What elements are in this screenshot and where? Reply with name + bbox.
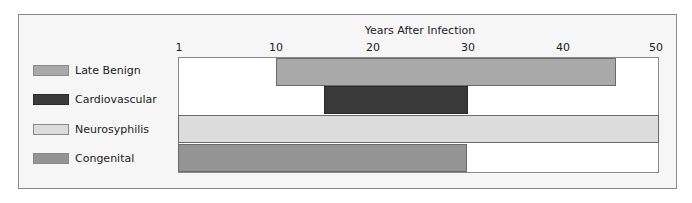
legend-label: Neurosyphilis [75, 123, 149, 136]
legend-swatch-cardiovascular [33, 94, 69, 105]
legend-item-cardiovascular: Cardiovascular [33, 92, 157, 106]
bar-neurosyphilis [178, 115, 659, 143]
x-tick-30: 30 [461, 41, 475, 54]
x-tick-50: 50 [649, 41, 663, 54]
legend-swatch-congenital [33, 153, 69, 164]
bar-congenital [178, 144, 467, 172]
legend-item-late-benign: Late Benign [33, 63, 141, 77]
plot-area [178, 57, 659, 173]
legend-label: Late Benign [75, 64, 141, 77]
bar-cardiovascular [324, 86, 468, 114]
x-tick-10: 10 [269, 41, 283, 54]
x-tick-1: 1 [176, 41, 183, 54]
legend-item-neurosyphilis: Neurosyphilis [33, 122, 149, 136]
x-tick-40: 40 [556, 41, 570, 54]
x-tick-20: 20 [366, 41, 380, 54]
x-axis-title: Years After Infection [340, 24, 500, 37]
legend-label: Congenital [75, 152, 134, 165]
legend-label: Cardiovascular [75, 93, 157, 106]
legend-swatch-neurosyphilis [33, 124, 69, 135]
bar-late-benign [276, 58, 616, 86]
legend-swatch-late-benign [33, 65, 69, 76]
legend-item-congenital: Congenital [33, 151, 134, 165]
